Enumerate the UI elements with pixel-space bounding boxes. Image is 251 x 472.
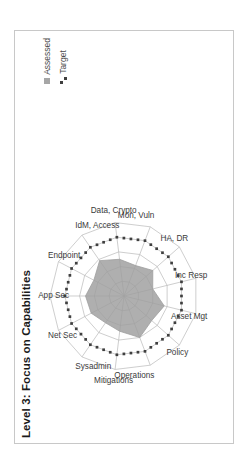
chart-frame: Level 3: Focus on Capabilities Assessed … <box>14 30 234 444</box>
svg-text:Policy: Policy <box>166 348 189 357</box>
svg-text:HA, DR: HA, DR <box>161 234 189 243</box>
svg-text:App Sec: App Sec <box>38 291 69 300</box>
svg-text:Mitigations: Mitigations <box>94 376 133 385</box>
svg-text:IdM, Access: IdM, Access <box>75 221 119 230</box>
radar-plot: App SecEndpointIdM, AccessData, CryptoMo… <box>14 30 234 444</box>
svg-text:Mon, Vuln: Mon, Vuln <box>118 211 155 220</box>
svg-text:Endpoint: Endpoint <box>48 251 81 260</box>
rotated-chart-stage: Level 3: Focus on Capabilities Assessed … <box>14 30 234 444</box>
svg-text:Asset Mgt: Asset Mgt <box>171 312 208 321</box>
svg-text:Net Sec: Net Sec <box>48 331 77 340</box>
svg-text:Inc Resp: Inc Resp <box>175 271 208 280</box>
svg-text:Sysadmin: Sysadmin <box>75 362 111 371</box>
series-assessed <box>86 259 165 337</box>
